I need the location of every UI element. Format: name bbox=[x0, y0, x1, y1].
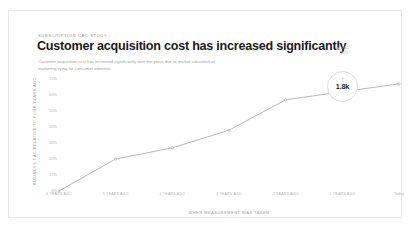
y-tick-label: 50% bbox=[49, 109, 57, 113]
page-title: Customer acquisition cost has increased … bbox=[37, 39, 346, 53]
y-axis-ticks: 70%60%50%40%30%20%10%0% bbox=[40, 71, 57, 191]
caret-up-icon: ▲ bbox=[341, 77, 344, 80]
annotation-badge: ▲ 1.8k bbox=[327, 71, 358, 102]
x-tick-label: 4 YEARS AGO bbox=[159, 192, 185, 196]
data-point bbox=[171, 147, 173, 149]
y-tick-label: 60% bbox=[49, 93, 57, 97]
data-point bbox=[115, 158, 117, 160]
legend-labels: CAC ROI bbox=[341, 46, 349, 57]
chart-card: SUBSCRIPTION CAC STUDY Customer acquisit… bbox=[8, 10, 402, 218]
y-tick-label: 40% bbox=[49, 125, 57, 129]
x-tick-label: 6 YEARS AGO bbox=[46, 192, 72, 196]
data-point bbox=[228, 129, 230, 131]
legend-item-roi: ROI bbox=[341, 51, 349, 56]
x-axis-title: WHEN MEASUREMENT WAS TAKEN bbox=[59, 210, 399, 215]
y-tick-label: 10% bbox=[49, 173, 57, 177]
chart-legend: CAC ROI bbox=[336, 46, 349, 57]
x-axis-ticks: 6 YEARS AGO5 YEARS AGO4 YEARS AGO3 YEARS… bbox=[59, 192, 399, 200]
y-tick-label: 30% bbox=[49, 141, 57, 145]
data-point bbox=[398, 83, 400, 85]
data-point bbox=[285, 99, 287, 101]
card-kicker: SUBSCRIPTION CAC STUDY bbox=[38, 33, 107, 38]
x-tick-label: 1 YEARS AGO bbox=[329, 192, 355, 196]
annotation-value: 1.8k bbox=[336, 82, 349, 91]
y-tick-label: 20% bbox=[49, 157, 57, 161]
x-tick-label: Today bbox=[394, 192, 404, 196]
y-axis-title: BUSINESS CAC RELATIVE TO FOUR YEARS AGO bbox=[33, 61, 37, 201]
x-tick-label: 2 YEARS AGO bbox=[273, 192, 299, 196]
x-tick-label: 3 YEARS AGO bbox=[216, 192, 242, 196]
y-tick-label: 70% bbox=[49, 77, 57, 81]
x-tick-label: 5 YEARS AGO bbox=[103, 192, 129, 196]
dot-icon bbox=[336, 47, 339, 50]
